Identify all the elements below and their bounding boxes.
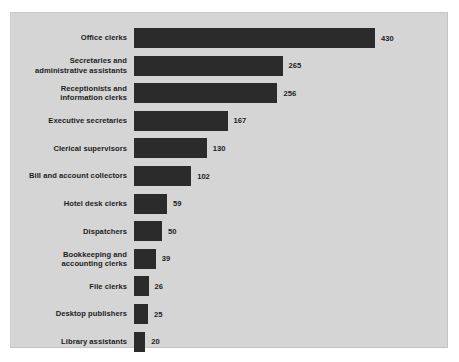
bar [134, 221, 162, 241]
bar-value-label: 130 [213, 144, 226, 153]
bar [134, 83, 277, 103]
bar-row: Receptionists and information clerks256 [11, 79, 447, 107]
bar-row: Bookkeeping and accounting clerks39 [11, 245, 447, 273]
bar [134, 138, 207, 158]
bar [134, 166, 191, 186]
category-label: Receptionists and information clerks [11, 84, 134, 102]
bar [134, 194, 167, 214]
chart-card: Office clerks430Secretaries and administ… [10, 12, 448, 348]
bar-row: Secretaries and administrative assistant… [11, 52, 447, 80]
category-label: Bookkeeping and accounting clerks [11, 250, 134, 268]
bar-container: 256 [134, 79, 447, 107]
bar [134, 28, 375, 48]
bar-row: Dispatchers50 [11, 217, 447, 245]
bar-container: 59 [134, 190, 447, 218]
bar-value-label: 50 [168, 227, 176, 236]
bar-row: Clerical supervisors130 [11, 134, 447, 162]
category-label: Office clerks [11, 33, 134, 42]
category-label: Hotel desk clerks [11, 199, 134, 208]
bar [134, 111, 228, 131]
bar-value-label: 25 [154, 310, 162, 319]
bar-value-label: 39 [162, 254, 170, 263]
bar [134, 276, 149, 296]
bar-container: 26 [134, 272, 447, 300]
category-label: Library assistants [11, 337, 134, 346]
bar-container: 102 [134, 162, 447, 190]
bar [134, 304, 148, 324]
category-label: Executive secretaries [11, 116, 134, 125]
bar-row: Hotel desk clerks59 [11, 190, 447, 218]
category-label: Desktop publishers [11, 309, 134, 318]
bar-value-label: 102 [197, 172, 210, 181]
bar-row: Bill and account collectors102 [11, 162, 447, 190]
bar-value-label: 265 [289, 61, 302, 70]
bar-row: Executive secretaries167 [11, 107, 447, 135]
bar-container: 39 [134, 245, 447, 273]
bar-container: 50 [134, 217, 447, 245]
bar-value-label: 59 [173, 199, 181, 208]
bar-container: 130 [134, 134, 447, 162]
bar-row: Library assistants20 [11, 328, 447, 356]
bar-container: 167 [134, 107, 447, 135]
category-label: Dispatchers [11, 227, 134, 236]
bar [134, 56, 283, 76]
bar-value-label: 430 [381, 34, 394, 43]
bar-container: 25 [134, 300, 447, 328]
bar-row: File clerks26 [11, 272, 447, 300]
category-label: Secretaries and administrative assistant… [11, 56, 134, 74]
bar [134, 332, 145, 352]
bar-value-label: 167 [234, 116, 247, 125]
bar-value-label: 26 [155, 282, 163, 291]
bar-value-label: 256 [283, 89, 296, 98]
category-label: Clerical supervisors [11, 144, 134, 153]
category-label: Bill and account collectors [11, 171, 134, 180]
bar-container: 20 [134, 328, 447, 356]
bar [134, 249, 156, 269]
bar-container: 430 [134, 24, 447, 52]
category-label: File clerks [11, 282, 134, 291]
bar-row: Office clerks430 [11, 24, 447, 52]
bar-container: 265 [134, 52, 447, 80]
bar-chart-plot-area: Office clerks430Secretaries and administ… [11, 13, 447, 347]
bar-row: Desktop publishers25 [11, 300, 447, 328]
bar-value-label: 20 [151, 337, 159, 346]
